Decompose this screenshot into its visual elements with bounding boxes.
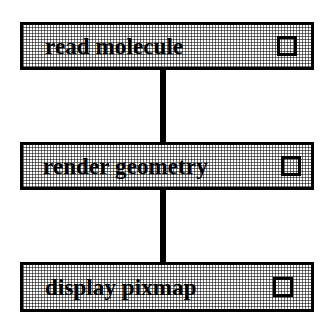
connector-read-molecule-to-render-geometry (160, 68, 166, 146)
stage-node-display-pixmap[interactable]: display pixmap (20, 262, 314, 312)
stage-content: render geometry (23, 145, 311, 187)
empty-square-icon[interactable] (273, 277, 293, 297)
stage-label-render-geometry: render geometry (43, 155, 208, 178)
stage-content: read molecule (23, 25, 311, 67)
empty-square-icon[interactable] (281, 156, 301, 176)
empty-square-icon[interactable] (277, 36, 297, 56)
connector-render-geometry-to-display-pixmap (160, 188, 166, 266)
stage-content: display pixmap (23, 265, 311, 309)
pipeline-diagram: read molecule render geometry display pi… (0, 0, 332, 328)
stage-node-read-molecule[interactable]: read molecule (20, 22, 314, 70)
stage-label-read-molecule: read molecule (45, 35, 183, 58)
stage-node-render-geometry[interactable]: render geometry (20, 142, 314, 190)
stage-label-display-pixmap: display pixmap (45, 276, 197, 299)
